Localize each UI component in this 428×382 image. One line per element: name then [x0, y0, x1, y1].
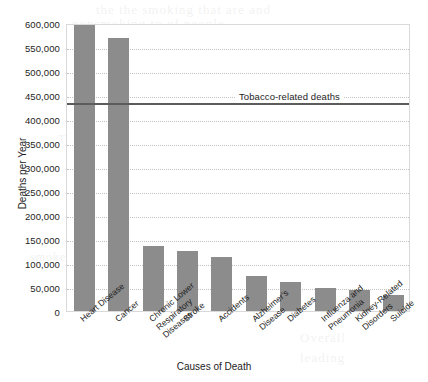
y-axis-tick-label: 400,000	[0, 115, 60, 126]
y-axis-tick-label: 200,000	[0, 211, 60, 222]
y-axis-tick-label: 100,000	[0, 259, 60, 270]
y-axis-tick-label: 0	[0, 307, 60, 318]
y-axis-tick-label: 300,000	[0, 163, 60, 174]
y-axis-tick-label: 600,000	[0, 19, 60, 30]
y-axis-tick-label: 550,000	[0, 43, 60, 54]
y-axis-tick-label: 450,000	[0, 91, 60, 102]
tobacco-reference-line	[67, 103, 409, 105]
y-axis-tick-label: 500,000	[0, 67, 60, 78]
bar-chart-figure: Deaths per Year 600,000550,000500,000450…	[0, 0, 428, 382]
x-axis-title: Causes of Death	[0, 361, 428, 372]
y-axis-tick-label: 50,000	[0, 283, 60, 294]
y-axis-tick-label: 150,000	[0, 235, 60, 246]
y-axis-tick-label: 350,000	[0, 139, 60, 150]
bar	[74, 24, 95, 311]
tobacco-reference-label: Tobacco-related deaths	[235, 91, 344, 102]
y-axis-tick-label: 250,000	[0, 187, 60, 198]
bar	[108, 38, 129, 311]
